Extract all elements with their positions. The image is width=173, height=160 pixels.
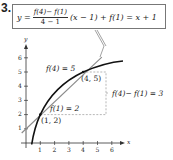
x-axis-arrow-icon [120, 141, 125, 145]
difference-label: f(4)− f(1) = 3 [112, 89, 163, 98]
point-4-5-label: (4, 5) [81, 74, 101, 83]
f4-label: f(4) = 5 [46, 64, 75, 73]
y-tick-label: 2 [18, 110, 22, 117]
y-tick-label: 3 [18, 96, 22, 103]
y-tick-label: 1 [18, 124, 22, 131]
y-axis-arrow-icon [24, 44, 28, 49]
x-tick-label: 4 [81, 146, 85, 153]
y-tick-label: 5 [18, 68, 22, 75]
y-axis-label: y [24, 35, 27, 42]
formula-denominator: 4 − 1 [41, 18, 60, 27]
formula-numerator: f(4)− f(1) [33, 8, 68, 18]
point-1-2-label: (1, 2) [41, 116, 61, 125]
problem-number: 3. [1, 1, 11, 15]
x-tick-label: 2 [53, 146, 57, 153]
formula-box: y = f(4)− f(1) 4 − 1 (x − 1) + f(1) = x … [12, 4, 166, 29]
x-tick-label: 3 [67, 146, 71, 153]
formula-fraction: f(4)− f(1) 4 − 1 [33, 8, 68, 27]
y-tick-label: 6 [18, 54, 22, 61]
formula-lhs: y = [17, 13, 31, 22]
x-tick-label: 1 [38, 146, 42, 153]
x-axis-label: x [127, 138, 130, 145]
x-tick-label: 6 [110, 146, 114, 153]
formula-rest: (x − 1) + f(1) = x + 1 [70, 13, 157, 22]
leader-line-2 [97, 30, 106, 46]
f1-label: f(1) = 2 [50, 104, 79, 113]
x-tick-label: 5 [96, 146, 100, 153]
y-tick-label: 4 [18, 82, 22, 89]
point-4-5 [82, 71, 85, 74]
secant-formula: y = f(4)− f(1) 4 − 1 (x − 1) + f(1) = x … [17, 5, 157, 30]
function-curve [32, 61, 123, 145]
